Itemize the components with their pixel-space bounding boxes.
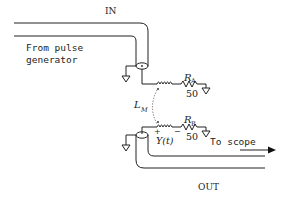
circuit-diagram: IN From pulse generator R A 50 L M R B 5… [0, 0, 290, 200]
label-lm: L [133, 99, 141, 110]
label-lm-sub: M [140, 106, 148, 114]
label-source-line2: generator [26, 54, 78, 65]
ground-icon [122, 76, 130, 82]
polarity-dot-b [157, 121, 159, 123]
resistor-a-ground-wire [197, 84, 206, 88]
resistor-b-ground-wire [197, 127, 206, 131]
output-ground-wire [126, 135, 136, 145]
label-to-scope: To scope [210, 136, 256, 147]
input-ground [122, 66, 136, 82]
label-ra-sub: A [190, 77, 196, 85]
label-out: OUT [198, 182, 219, 192]
inductor-a-icon [157, 82, 172, 84]
input-ground-wire [126, 66, 136, 76]
polarity-dot-a [157, 88, 159, 90]
label-in: IN [105, 6, 117, 16]
ground-icon [122, 145, 130, 151]
mutual-coupling-arc [153, 90, 158, 124]
label-rb-value: 50 [186, 131, 198, 142]
output-ground [122, 135, 136, 151]
arrow-right-icon [268, 147, 276, 154]
label-minus: − [174, 127, 181, 136]
label-y-of-t: Y(t) [156, 135, 174, 146]
input-center-wire [142, 69, 157, 84]
label-source-line1: From pulse [26, 42, 83, 53]
input-coax-center-pin [141, 65, 143, 67]
label-ra-value: 50 [186, 88, 198, 99]
label-rb-sub: B [191, 120, 196, 128]
ground-icon [202, 88, 210, 94]
ground-icon [202, 131, 210, 137]
